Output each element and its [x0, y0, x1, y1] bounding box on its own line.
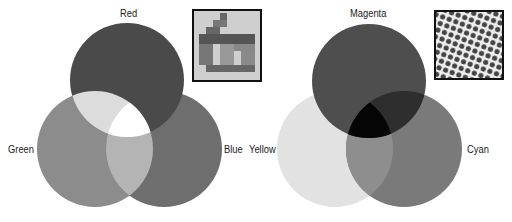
label-blue: Blue	[224, 143, 243, 155]
label-red: Red	[120, 7, 137, 19]
label-yellow: Yellow	[249, 143, 276, 155]
label-magenta: Magenta	[350, 7, 386, 19]
label-cyan: Cyan	[467, 143, 489, 155]
pixel-inset	[192, 9, 262, 82]
label-green: Green	[8, 143, 34, 155]
halftone-inset	[434, 10, 504, 80]
venn-diagrams	[0, 0, 512, 222]
